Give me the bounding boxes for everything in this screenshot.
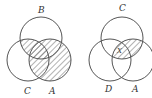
label-b: B <box>37 5 45 15</box>
venn-right: C D A X <box>89 3 152 94</box>
label-a: A <box>131 84 139 94</box>
region-mark-x: X <box>116 47 123 55</box>
venn-diagrams: B C A C D A X <box>0 0 152 98</box>
label-a: A <box>48 86 56 96</box>
venn-left: B C A <box>7 5 71 96</box>
circle-d <box>89 39 131 81</box>
label-c: C <box>119 3 126 13</box>
label-d: D <box>104 84 112 94</box>
label-c: C <box>24 86 31 96</box>
